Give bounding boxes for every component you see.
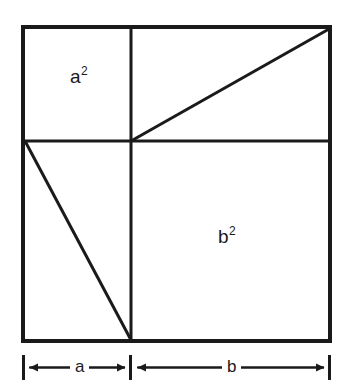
area-label-b-exponent: 2 [229, 224, 236, 238]
area-label-a-exponent: 2 [81, 64, 88, 78]
area-label-a-squared: a2 [70, 66, 87, 86]
pythagorean-square-figure: a2 b2 a b [0, 0, 345, 391]
lower-left-diagonal [25, 141, 131, 340]
area-label-b-squared: b2 [218, 226, 235, 246]
area-label-b-base: b [218, 226, 229, 247]
upper-right-diagonal [131, 29, 329, 141]
dimension-label-b: b [222, 358, 241, 375]
area-label-a-base: a [70, 66, 81, 87]
dimension-label-a: a [70, 358, 89, 375]
figure-canvas [0, 0, 345, 391]
